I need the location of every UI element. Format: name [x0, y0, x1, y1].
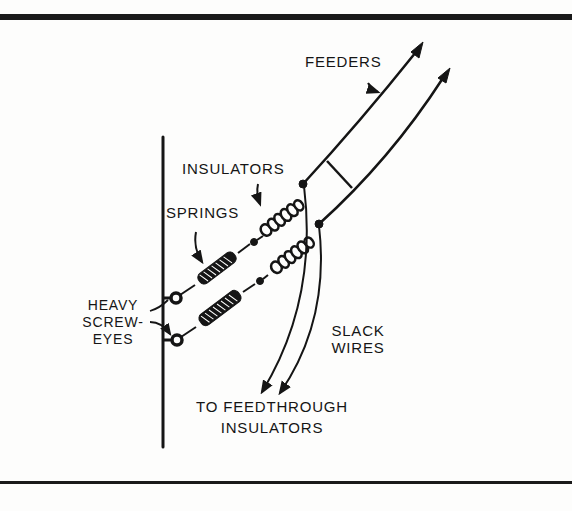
springs-pointer: [195, 232, 202, 262]
insulator-lower: [269, 235, 317, 275]
label-to-feedthrough-insulators: TO FEEDTHROUGH INSULATORS: [182, 396, 362, 438]
label-springs: SPRINGS: [166, 204, 239, 221]
lower-chain: [181, 68, 450, 337]
label-insulators: INSULATORS: [182, 160, 284, 177]
insulators-pointer: [257, 184, 260, 204]
top-border: [0, 14, 572, 20]
screw-eye-lower: [163, 335, 182, 345]
feeders-pointer: [368, 83, 378, 92]
insulator-upper: [258, 198, 306, 238]
label-heavy-screw-eyes: HEAVY SCREW- EYES: [78, 297, 148, 348]
label-slack-wires: SLACK WIRES: [328, 322, 388, 356]
feeder-termination-diagram: FEEDERS INSULATORS SPRINGS HEAVY SCREW- …: [0, 0, 572, 511]
label-feeders: FEEDERS: [305, 53, 381, 70]
feeder-wire-upper: [303, 52, 416, 184]
bottom-border: [0, 481, 572, 484]
screw-eye-pointer-lower: [150, 322, 170, 334]
spring-lower: [197, 288, 243, 327]
screw-eye-pointer-upper: [150, 300, 168, 311]
spreader: [327, 161, 352, 188]
spring-upper: [196, 250, 238, 286]
feeder-wire-lower: [319, 78, 443, 224]
